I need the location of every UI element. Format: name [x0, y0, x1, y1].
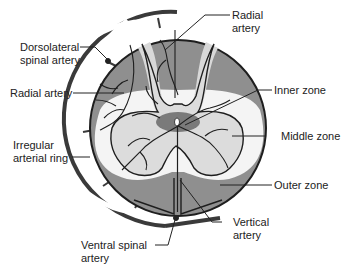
label-dorsolateral-spinal-artery: Dorsolateral spinal artery [20, 41, 80, 67]
label-middle-zone: Middle zone [281, 130, 340, 143]
label-vertical-artery: Vertical artery [233, 216, 269, 242]
label-ventral-spinal-artery: Ventral spinal artery [81, 239, 147, 265]
label-inner-zone: Inner zone [274, 84, 326, 97]
label-radial-artery-left: Radial artery [10, 87, 72, 100]
label-radial-artery-top: Radial artery [232, 9, 263, 35]
label-outer-zone: Outer zone [274, 179, 328, 192]
label-irregular-arterial-ring: Irregular arterial ring [13, 139, 68, 165]
spinal-cord-blood-supply-diagram: Dorsolateral spinal artery Radial artery… [0, 0, 346, 265]
